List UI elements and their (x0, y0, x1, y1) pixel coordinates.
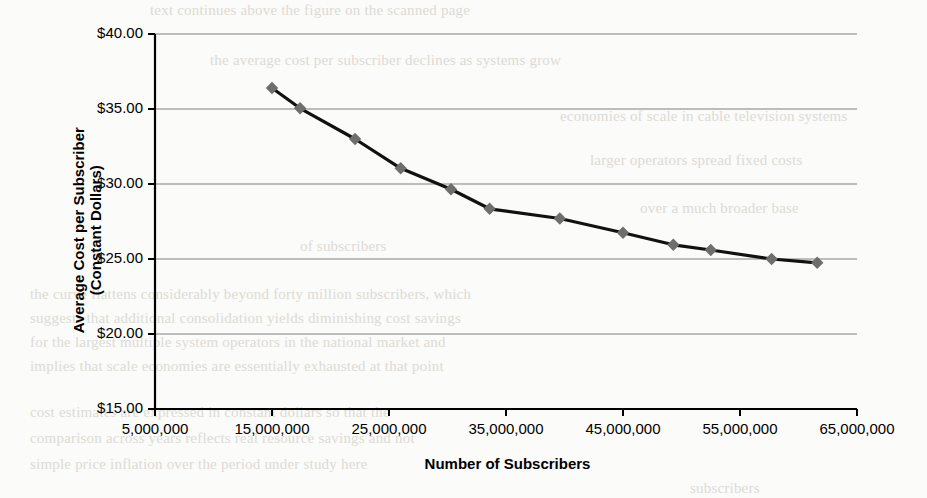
x-axis-tick-label: 45,000,000 (563, 420, 683, 437)
x-axis-tick-label: 15,000,000 (212, 420, 332, 437)
data-point-marker (483, 203, 495, 215)
scanned-page: text continues above the figure on the s… (0, 0, 927, 498)
x-axis-tick-label: 5,000,000 (95, 420, 215, 437)
y-axis-title-line-1: Average Cost per Subscriber (70, 80, 87, 380)
line-chart-figure: $40.00$35.00$30.00$25.00$20.00$15.00 5,0… (0, 0, 927, 498)
x-axis-title: Number of Subscribers (155, 455, 860, 472)
data-series-line (272, 88, 817, 263)
data-point-marker (705, 244, 717, 256)
data-point-markers (266, 82, 824, 269)
x-axis-tick-label: 55,000,000 (680, 420, 800, 437)
gridlines (155, 34, 857, 334)
y-axis-tick-label: $15.00 (57, 399, 143, 416)
x-axis-tick-label: 25,000,000 (329, 420, 449, 437)
y-axis-tick-label: $40.00 (57, 24, 143, 41)
data-point-marker (617, 227, 629, 239)
x-axis-tick-label: 65,000,000 (797, 420, 917, 437)
x-axis-tick-label: 35,000,000 (446, 420, 566, 437)
data-point-marker (765, 253, 777, 265)
data-point-marker (445, 183, 457, 195)
y-axis-title: Average Cost per Subscriber (Constant Do… (70, 80, 105, 380)
data-point-marker (667, 239, 679, 251)
data-point-marker (554, 212, 566, 224)
y-axis-title-line-2: (Constant Dollars) (87, 80, 104, 380)
